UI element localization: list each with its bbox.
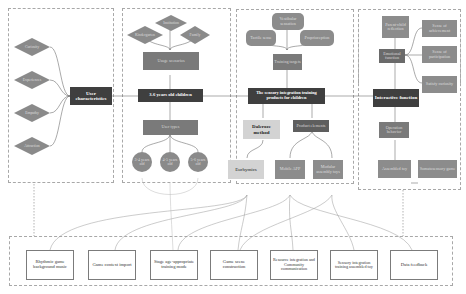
vestibular-sensation-node: Vestibular sensation (272, 13, 304, 30)
children-node: 3-6 years old children (138, 89, 203, 102)
dalcroze-method-node: Dalcroze method (243, 120, 280, 139)
feature-rhythmic-music: Rhythmic game background music (26, 250, 74, 280)
diamond-experiences: Experiences (14, 71, 50, 89)
user-characteristics-node: User characteristics (70, 87, 112, 105)
operation-behavior-node: Operation behavior (379, 122, 409, 138)
diamond-attraction: Attraction (14, 137, 50, 155)
interactive-function-node: Interactive function (373, 89, 419, 107)
product-elements-node: Product elements (293, 120, 329, 132)
age-circle-3-4: 3-4 years old (132, 152, 152, 172)
feature-data-feedback: Data feedback (390, 250, 438, 280)
diamond-empathy: Empathy (14, 104, 50, 122)
sense-of-participation-node: Sense of participation (422, 46, 457, 63)
modular-toys-node: Modular assembly toys (313, 160, 343, 179)
feature-stage-training: Stage age-appropriate training mode (150, 250, 198, 280)
assembled-toy-node: Assembled toy (378, 160, 411, 178)
age-circle-5-6: 5-6 years old (188, 152, 208, 172)
sense-of-achievement-node: Sense of achievement (422, 20, 457, 37)
user-types-node: User types (143, 120, 198, 135)
feature-game-context: Game context import (88, 250, 136, 280)
diamond-family: Family (180, 26, 210, 44)
diamond-curiosity: Curiosity (14, 38, 50, 56)
age-circle-4-5: 4-5 years old (160, 152, 180, 172)
feature-resource-integration: Resource integration and Community commu… (270, 250, 318, 280)
mobile-app-node: Mobile APP (275, 160, 305, 179)
feature-assembled-toy: Sensory integration training assembled t… (330, 250, 378, 280)
parent-child-reflection-node: Parent-child reflection (382, 16, 409, 38)
tactile-sense-node: Tactile sense (246, 30, 276, 46)
emotional-function-node: Emotional function (379, 49, 405, 63)
usage-scenarios-node: Usage scenarios (143, 52, 199, 70)
somatosensory-game-node: Somatosensory game (418, 160, 457, 178)
eurhymics-node: Eurhymics (228, 160, 264, 179)
training-targets-node: Training targets (273, 54, 302, 70)
feature-scene-construction: Game scene construction (210, 250, 258, 280)
satisfy-curiosity-node: Satisfy curiosity (422, 76, 457, 93)
product-center-node: The sensory integration training product… (248, 88, 325, 104)
proprioception-node: Proprioception (300, 30, 334, 46)
